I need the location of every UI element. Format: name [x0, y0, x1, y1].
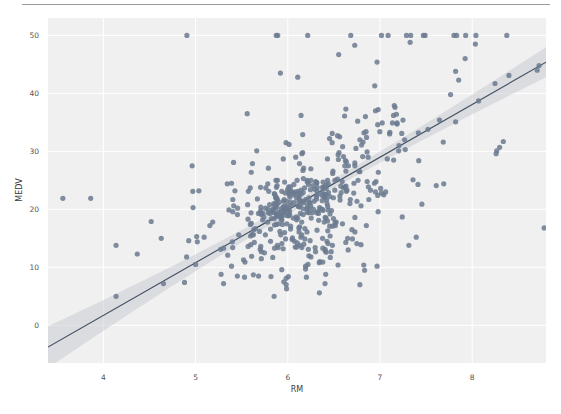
scatter-point [350, 236, 355, 241]
scatter-point [346, 163, 351, 168]
scatter-point [276, 245, 281, 250]
scatter-point [408, 40, 413, 45]
scatter-point [437, 117, 442, 122]
scatter-point [248, 210, 253, 215]
scatter-point [299, 245, 304, 250]
y-tick-label: 50 [29, 31, 39, 40]
scatter-point [221, 281, 226, 286]
scatter-point [231, 203, 236, 208]
scatter-point [274, 183, 279, 188]
scatter-point [473, 41, 478, 46]
scatter-point [536, 63, 541, 68]
scatter-point [229, 181, 234, 186]
scatter-point [282, 230, 287, 235]
scatter-point [354, 199, 359, 204]
scatter-point [297, 161, 302, 166]
scatter-point [241, 257, 246, 262]
scatter-point [542, 225, 547, 230]
scatter-point [274, 33, 279, 38]
scatter-point [300, 150, 305, 155]
scatter-point [283, 191, 288, 196]
scatter-point [221, 246, 226, 251]
scatter-point [273, 178, 278, 183]
scatter-point [352, 43, 357, 48]
scatter-point [425, 127, 430, 132]
scatter-point [448, 92, 453, 97]
scatter-point [268, 226, 273, 231]
scatter-point [249, 170, 254, 175]
scatter-point [364, 149, 369, 154]
scatter-point [332, 220, 337, 225]
scatter-point [322, 192, 327, 197]
scatter-point [376, 170, 381, 175]
scatter-point [380, 120, 385, 125]
scatter-point [365, 179, 370, 184]
scatter-point [195, 239, 200, 244]
scatter-point [266, 166, 271, 171]
scatter-point [305, 262, 310, 267]
scatter-point [340, 221, 345, 226]
scatter-point [295, 215, 300, 220]
scatter-point [330, 243, 335, 248]
scatter-point [266, 189, 271, 194]
scatter-point [207, 223, 212, 228]
scatter-point [229, 264, 234, 269]
scatter-point [295, 75, 300, 80]
scatter-point [336, 52, 341, 57]
scatter-point [308, 178, 313, 183]
scatter-point [372, 181, 377, 186]
scatter-point [287, 195, 292, 200]
scatter-point [296, 203, 301, 208]
scatter-point [363, 129, 368, 134]
scatter-point [337, 197, 342, 202]
scatter-point [309, 215, 314, 220]
scatter-point [242, 275, 247, 280]
scatter-point [421, 33, 426, 38]
scatter-point [259, 212, 264, 217]
scatter-point [325, 156, 330, 161]
scatter-point [113, 243, 118, 248]
scatter-point [279, 241, 284, 246]
scatter-point [287, 208, 292, 213]
scatter-point [348, 197, 353, 202]
scatter-point [387, 130, 392, 135]
scatter-point [456, 77, 461, 82]
scatter-point [298, 113, 303, 118]
scatter-point [135, 251, 140, 256]
scatter-point [230, 245, 235, 250]
y-axis-title: MEDV [15, 178, 24, 202]
scatter-point [342, 113, 347, 118]
scatter-point [406, 243, 411, 248]
scatter-point [373, 108, 378, 113]
scatter-point [375, 122, 380, 127]
scatter-point [308, 166, 313, 171]
scatter-point [190, 163, 195, 168]
scatter-point [492, 81, 497, 86]
scatter-point [331, 195, 336, 200]
scatter-point [343, 106, 348, 111]
scatter-point [400, 214, 405, 219]
scatter-point [190, 205, 195, 210]
scatter-point [270, 255, 275, 260]
scatter-point [416, 158, 421, 163]
scatter-point [259, 256, 264, 261]
scatter-point [497, 145, 502, 150]
y-axis-tick-labels: 01020304050 [29, 31, 39, 330]
scatter-point [341, 154, 346, 159]
scatter-point [314, 210, 319, 215]
scatter-point [193, 262, 198, 267]
scatter-point [399, 131, 404, 136]
scatter-point [263, 206, 268, 211]
scatter-point [235, 212, 240, 217]
scatter-point [317, 260, 322, 265]
scatter-point [302, 226, 307, 231]
scatter-point [245, 217, 250, 222]
scatter-point [335, 262, 340, 267]
x-tick-label: 8 [470, 373, 475, 382]
scatter-point [254, 148, 259, 153]
scatter-point [453, 119, 458, 124]
scatter-point [463, 56, 468, 61]
y-tick-label: 20 [29, 205, 39, 214]
scatter-point [202, 235, 207, 240]
scatter-point [284, 282, 289, 287]
